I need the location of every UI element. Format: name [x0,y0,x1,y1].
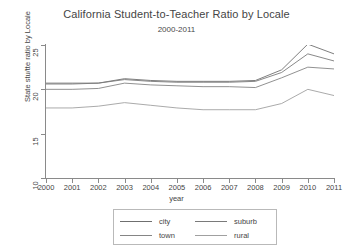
x-tick-label: 2007 [216,183,242,192]
series-canvas [46,45,334,178]
x-tick-label: 2004 [138,183,164,192]
legend-item-city[interactable]: city [120,217,195,226]
x-axis-line [45,178,335,179]
series-line-town [46,67,334,89]
y-tick-label: 25 [31,44,40,62]
chart-legend: city suburb town rural [113,209,277,245]
x-tick-label: 2006 [190,183,216,192]
legend-row: town rural [120,228,270,242]
x-tick-label: 2003 [112,183,138,192]
x-tick-label: 2005 [164,183,190,192]
plot-area [46,45,334,178]
legend-swatch-line-icon [195,235,227,236]
legend-item-town[interactable]: town [120,231,195,240]
legend-label: city [159,217,170,226]
x-tick-label: 2011 [321,183,347,192]
x-tick-label: 2001 [59,183,85,192]
chart-figure: California Student-to-Teacher Ratio by L… [0,0,353,252]
series-line-city [46,45,334,83]
y-tick-label: 20 [31,88,40,106]
legend-swatch-line-icon [195,221,227,222]
legend-label: suburb [234,217,257,226]
series-line-rural [46,89,334,109]
y-tick [41,89,45,90]
y-tick [41,45,45,46]
y-tick-label: 15 [31,132,40,150]
x-tick-label: 2008 [242,183,268,192]
chart-title: California Student-to-Teacher Ratio by L… [0,8,353,20]
x-tick-label: 2010 [295,183,321,192]
y-tick [41,178,45,179]
legend-item-suburb[interactable]: suburb [195,217,270,226]
legend-label: rural [234,231,249,240]
legend-swatch-line-icon [120,221,152,222]
chart-subtitle: 2000-2011 [0,25,353,34]
x-axis-label: year [0,194,353,203]
series-line-suburb [46,54,334,84]
legend-swatch-line-icon [120,235,152,236]
legend-row: city suburb [120,214,270,228]
x-tick-label: 2000 [33,183,59,192]
x-tick-label: 2009 [269,183,295,192]
x-tick-label: 2002 [85,183,111,192]
y-tick [41,134,45,135]
legend-item-rural[interactable]: rural [195,231,270,240]
legend-label: town [159,231,175,240]
